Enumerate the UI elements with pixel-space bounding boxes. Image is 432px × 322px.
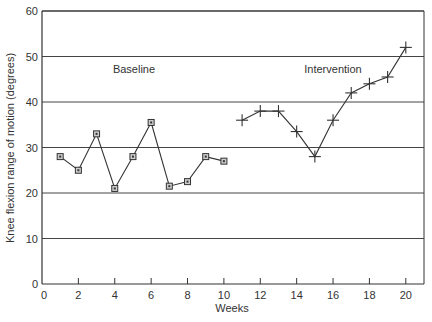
x-axis-label: Weeks [215, 302, 249, 314]
marker-dot [132, 156, 134, 158]
x-tick-label: 10 [218, 289, 230, 301]
x-tick-label: 20 [400, 289, 412, 301]
series-line [60, 122, 224, 188]
marker-dot [96, 133, 98, 135]
y-tick-label: 10 [26, 233, 38, 245]
x-tick-label: 8 [184, 289, 190, 301]
phase-label: Baseline [113, 63, 155, 75]
x-axis-ticks: 02468101214161820 [41, 278, 412, 301]
marker-dot [223, 160, 225, 162]
x-tick-label: 18 [363, 289, 375, 301]
x-tick-label: 2 [75, 289, 81, 301]
x-tick-label: 12 [254, 289, 266, 301]
marker-dot [150, 121, 152, 123]
x-tick-label: 0 [41, 289, 47, 301]
y-tick-label: 40 [26, 96, 38, 108]
y-tick-label: 60 [26, 5, 38, 17]
y-axis-ticks: 0102030405060 [26, 5, 38, 290]
x-tick-label: 16 [327, 289, 339, 301]
y-tick-label: 20 [26, 187, 38, 199]
marker-dot [59, 156, 61, 158]
x-tick-label: 14 [291, 289, 303, 301]
y-tick-label: 50 [26, 51, 38, 63]
marker-dot [205, 156, 207, 158]
y-tick-label: 0 [32, 278, 38, 290]
y-tick-label: 30 [26, 142, 38, 154]
marker-dot [77, 169, 79, 171]
marker-dot [187, 181, 189, 183]
chart: 02468101214161820 0102030405060 Baseline… [0, 0, 432, 322]
phase-label: Intervention [304, 63, 361, 75]
phase-labels: BaselineIntervention [113, 63, 362, 75]
marker-dot [114, 187, 116, 189]
gridlines [42, 11, 424, 239]
x-tick-label: 4 [112, 289, 118, 301]
x-tick-label: 6 [148, 289, 154, 301]
marker-dot [168, 185, 170, 187]
y-axis-label: Knee flexion range of motion (degrees) [4, 53, 16, 243]
